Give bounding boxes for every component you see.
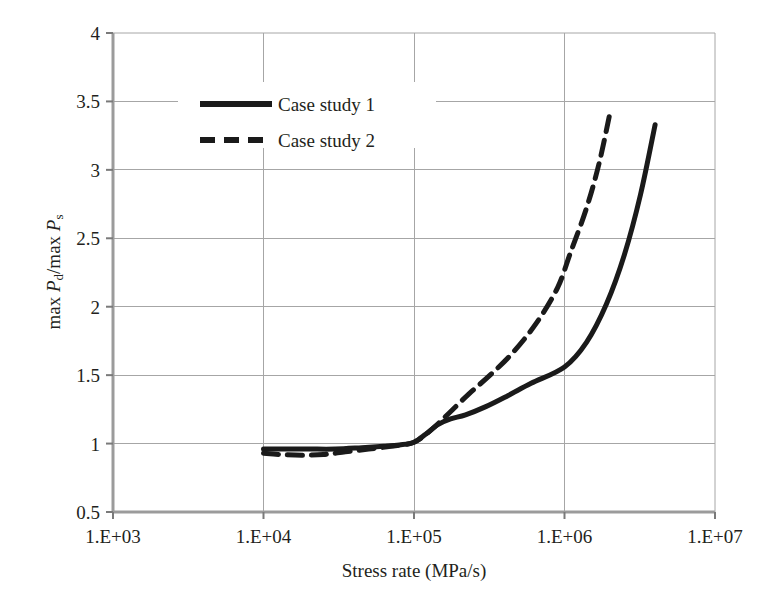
y-tick-label: 1.5 [76, 365, 100, 386]
legend-label-case-study-2: Case study 2 [278, 130, 375, 151]
chart-canvas: 0.511.522.533.54 1.E+031.E+041.E+051.E+0… [0, 0, 780, 604]
y-axis-title-group: max Pd/max Ps [43, 215, 66, 330]
y-tick-label: 3.5 [76, 91, 100, 112]
x-tick-label: 1.E+06 [537, 526, 593, 547]
x-tick-label: 1.E+07 [687, 526, 743, 547]
y-tick-label: 1 [91, 434, 101, 455]
y-tick-label: 3 [91, 160, 101, 181]
y-tick-label: 2.5 [76, 228, 100, 249]
x-tick-label: 1.E+05 [386, 526, 442, 547]
x-axis-tick-labels: 1.E+031.E+041.E+051.E+061.E+07 [85, 526, 743, 547]
y-tick-label: 2 [91, 297, 101, 318]
y-axis-title: max Pd/max Ps [43, 215, 66, 330]
y-axis-tick-labels: 0.511.522.533.54 [76, 23, 100, 523]
y-tick-label: 0.5 [76, 502, 100, 523]
legend-label-case-study-1: Case study 1 [278, 94, 375, 115]
chart-legend: Case study 1 Case study 2 [178, 82, 436, 151]
y-tick-label: 4 [91, 23, 101, 44]
x-tick-label: 1.E+04 [236, 526, 292, 547]
figure-container: 0.511.522.533.54 1.E+031.E+041.E+051.E+0… [0, 0, 780, 604]
x-axis-title: Stress rate (MPa/s) [342, 560, 487, 582]
x-tick-label: 1.E+03 [85, 526, 141, 547]
